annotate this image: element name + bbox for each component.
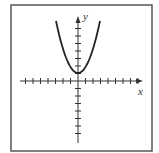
x-axis-arrow-icon <box>136 79 143 84</box>
y-axis-label: y <box>82 10 88 22</box>
y-axis <box>75 16 81 143</box>
y-axis-arrow-icon <box>76 16 81 23</box>
graph-figure: y x <box>0 0 159 153</box>
x-axis <box>20 78 143 84</box>
x-axis-label: x <box>137 85 143 97</box>
